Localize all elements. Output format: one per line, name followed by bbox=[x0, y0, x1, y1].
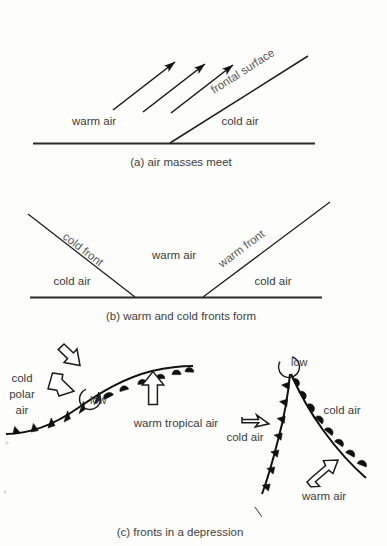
panel-c-right-cold-front-curve bbox=[262, 374, 290, 494]
panel-a-ascent-arrow-1 bbox=[113, 62, 175, 110]
panel-b-caption: (b) warm and cold fronts form bbox=[106, 310, 256, 322]
panel-c-caption: (c) fronts in a depression bbox=[117, 526, 244, 538]
panel-c-left-cold-polar-air-line2: polar bbox=[9, 388, 35, 400]
panel-c-right-warm-front-bumps bbox=[293, 378, 367, 467]
panel-c-left-map: low cold polar air warm tropical air bbox=[6, 344, 218, 434]
panel-c-right-cold-front-barbs bbox=[262, 382, 289, 491]
panel-c-right-map: low cold air cold air warm air bbox=[226, 354, 366, 502]
panel-b-cold-front-label: cold front bbox=[61, 230, 106, 269]
panel-a-ascent-arrow-2 bbox=[143, 64, 205, 112]
panel-a-caption: (a) air masses meet bbox=[130, 156, 232, 168]
panel-c-right-warm-air-arrow-icon bbox=[307, 460, 338, 487]
panel-c-left-low-label: low bbox=[90, 394, 107, 406]
scan-speck bbox=[5, 441, 8, 444]
panel-c-left-cold-air-arrow-upper-icon bbox=[58, 344, 80, 366]
panel-c-left-cold-air-arrow-lower-icon bbox=[48, 373, 74, 396]
panel-a: warm air cold air frontal surface (a) ai… bbox=[33, 46, 315, 168]
panel-b-warm-air-label: warm air bbox=[151, 249, 196, 261]
panel-c-left-warm-tropical-air-label: warm tropical air bbox=[133, 417, 219, 429]
panel-c-left-cold-polar-air-line3: air bbox=[16, 404, 29, 416]
panel-a-frontal-surface-label: frontal surface bbox=[209, 46, 277, 95]
scan-stray-mark bbox=[255, 507, 262, 517]
panel-b: cold front warm front warm air cold air … bbox=[28, 202, 330, 322]
panel-c-right-cold-air-left-label: cold air bbox=[226, 431, 263, 443]
fronts-and-depression-figure: warm air cold air frontal surface (a) ai… bbox=[0, 0, 387, 546]
panel-b-warm-front-label: warm front bbox=[215, 227, 267, 270]
panel-b-cold-air-right-label: cold air bbox=[254, 275, 291, 287]
panel-c-right-cold-air-arrow-icon bbox=[242, 415, 269, 427]
panel-c-right-cold-air-right-label: cold air bbox=[323, 404, 360, 416]
scan-speck bbox=[4, 491, 7, 494]
panel-a-cold-air-label: cold air bbox=[221, 115, 258, 127]
panel-c-right-warm-air-label: warm air bbox=[301, 490, 346, 502]
panel-b-cold-air-left-label: cold air bbox=[53, 275, 90, 287]
panel-c-left-cold-polar-air-line1: cold bbox=[11, 372, 32, 384]
panel-a-warm-air-label: warm air bbox=[71, 115, 116, 127]
panel-c-right-low-label: low bbox=[291, 356, 308, 368]
